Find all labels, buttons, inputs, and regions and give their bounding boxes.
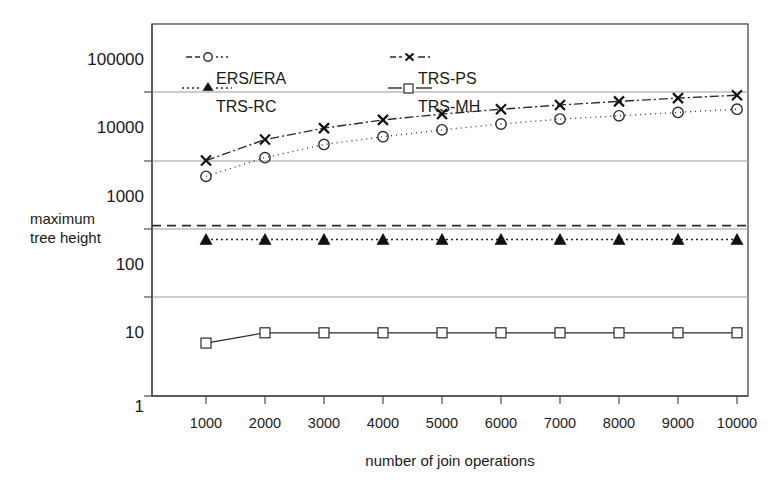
series-layer: [152, 90, 748, 348]
legend-swatch-ers-era: [186, 53, 228, 61]
data-point-trs-mh-8000: [614, 328, 624, 338]
x-axis-tick-labels: 1000 2000 3000 4000 5000 6000 7000 8000 …: [190, 415, 757, 431]
data-point-ers-era-10000: [732, 104, 742, 114]
legend-swatch-trs-ps: [390, 54, 432, 61]
series-trs-rc: [200, 234, 743, 245]
data-point-trs-mh-9000: [673, 328, 683, 338]
data-point-trs-mh-6000: [496, 328, 506, 338]
legend-label-trs-rc: TRS-RC: [216, 98, 276, 115]
x-tick-label-10000: 10000: [717, 415, 757, 431]
y-tick-label-1: 1: [135, 397, 144, 416]
data-point-trs-mh-3000: [319, 328, 329, 338]
x-axis-title: number of join operations: [365, 452, 534, 469]
y-axis-ticks: [144, 92, 152, 396]
data-point-trs-rc-3000: [318, 234, 330, 245]
y-tick-label-100: 100: [116, 255, 144, 274]
x-tick-label-9000: 9000: [662, 415, 694, 431]
series-trs-mh: [201, 328, 742, 348]
legend-label-trs-mh: TRS-MH: [418, 98, 480, 115]
y-tick-label-100000: 100000: [87, 50, 144, 69]
data-point-trs-mh-1000: [201, 338, 211, 348]
data-point-trs-rc-1000: [200, 234, 212, 245]
x-tick-label-6000: 6000: [485, 415, 517, 431]
data-point-ers-era-1000: [201, 171, 211, 181]
x-tick-label-4000: 4000: [367, 415, 399, 431]
data-point-trs-mh-4000: [378, 328, 388, 338]
maximum-tree-height-chart: 100000 10000 1000 100 10 1 maximum tree …: [0, 0, 775, 489]
legend-label-trs-ps: TRS-PS: [418, 70, 477, 87]
legend-marker-filled-triangle-icon: [203, 83, 213, 91]
x-tick-label-3000: 3000: [308, 415, 340, 431]
data-point-trs-rc-2000: [259, 234, 271, 245]
x-tick-label-7000: 7000: [544, 415, 576, 431]
chart-container: 100000 10000 1000 100 10 1 maximum tree …: [0, 0, 775, 489]
data-point-trs-mh-2000: [260, 328, 270, 338]
x-axis-ticks: [206, 396, 737, 404]
x-tick-label-1000: 1000: [190, 415, 222, 431]
data-point-ers-era-5000: [437, 125, 447, 135]
data-point-trs-rc-7000: [554, 234, 566, 245]
series-path-trs-mh: [206, 333, 737, 343]
x-tick-label-8000: 8000: [603, 415, 635, 431]
data-point-trs-mh-7000: [555, 328, 565, 338]
legend-marker-x-icon: [406, 54, 414, 61]
y-axis-title-line1: maximum: [30, 210, 95, 227]
data-point-trs-rc-8000: [613, 234, 625, 245]
legend-marker-open-square-icon: [404, 84, 413, 93]
legend-label-ers-era: ERS/ERA: [216, 70, 287, 87]
legend-marker-open-circle-icon: [204, 53, 212, 61]
data-point-ers-era-7000: [555, 114, 565, 124]
y-tick-label-10: 10: [125, 323, 144, 342]
x-tick-label-2000: 2000: [249, 415, 281, 431]
data-point-trs-mh-5000: [437, 328, 447, 338]
series-path-ers-era: [206, 109, 737, 176]
data-point-trs-mh-10000: [732, 328, 742, 338]
data-point-ers-era-9000: [673, 107, 683, 117]
y-tick-label-10000: 10000: [97, 118, 144, 137]
data-point-trs-ps-2000: [260, 135, 270, 145]
gridlines-horizontal: [152, 92, 748, 297]
series-ers-era: [201, 104, 742, 182]
y-axis-title: maximum tree height: [30, 210, 102, 246]
y-axis-title-line2: tree height: [30, 229, 102, 246]
chart-legend: ERS/ERA TRS-RC TRS-PS: [182, 53, 480, 115]
y-tick-label-1000: 1000: [106, 187, 144, 206]
x-tick-label-5000: 5000: [426, 415, 458, 431]
